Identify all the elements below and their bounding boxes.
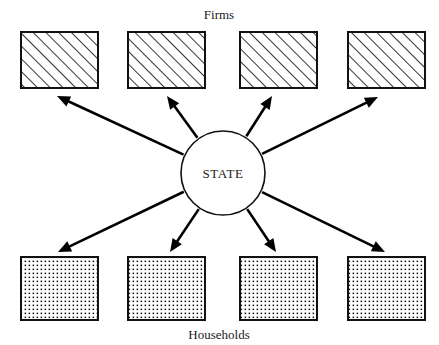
household-box-2[interactable] [128, 257, 205, 320]
firm-box-2[interactable] [128, 32, 205, 88]
household-box-1-shape[interactable] [21, 257, 98, 320]
household-box-2-shape[interactable] [128, 257, 205, 320]
economic-flow-diagram: Firms STATE Households [0, 0, 439, 345]
firm-box-3-shape[interactable] [240, 32, 317, 88]
household-box-4-shape[interactable] [348, 257, 425, 320]
state-node-label: STATE [203, 166, 244, 181]
household-box-3-shape[interactable] [240, 257, 317, 320]
households-group-title: Households [188, 327, 249, 342]
state-node[interactable]: STATE [181, 131, 265, 215]
firms-group-title: Firms [204, 7, 234, 22]
household-box-1[interactable] [21, 257, 98, 320]
firm-box-2-shape[interactable] [128, 32, 205, 88]
firm-box-1[interactable] [21, 32, 98, 88]
diagram-canvas: Firms STATE Households [0, 0, 439, 345]
household-box-3[interactable] [240, 257, 317, 320]
firm-box-4[interactable] [348, 32, 425, 88]
firm-box-3[interactable] [240, 32, 317, 88]
firm-box-1-shape[interactable] [21, 32, 98, 88]
household-box-4[interactable] [348, 257, 425, 320]
firm-box-4-shape[interactable] [348, 32, 425, 88]
